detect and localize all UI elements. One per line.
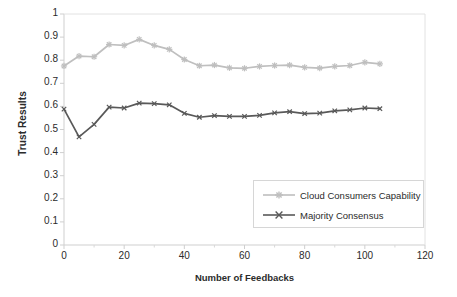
data-point-marker: [76, 53, 82, 59]
data-point-marker: [347, 62, 353, 68]
data-point-marker: [166, 46, 172, 52]
legend-label-cloud-consumers-capability: Cloud Consumers Capability: [300, 190, 420, 201]
data-point-marker: [271, 62, 277, 68]
data-point-marker: [256, 63, 262, 69]
legend-swatch-icon: [262, 209, 296, 221]
y-axis-ticks: [60, 14, 64, 245]
series-layer: [61, 36, 383, 139]
data-point-marker: [196, 63, 202, 69]
data-point-marker: [91, 54, 97, 60]
series-line: [64, 103, 380, 137]
data-series: [62, 101, 382, 139]
x-tick-label: 80: [285, 250, 325, 261]
data-point-marker: [92, 122, 96, 126]
x-tick-label: 0: [44, 250, 84, 261]
x-tick-label: 100: [345, 250, 385, 261]
data-point-marker: [121, 42, 127, 48]
data-point-marker: [61, 63, 67, 69]
chart-container: Trust Results 00.10.20.30.40.50.60.70.80…: [0, 0, 457, 297]
x-tick-label: 120: [405, 250, 445, 261]
data-point-marker: [332, 63, 338, 69]
x-axis-ticks: [64, 245, 425, 249]
data-point-marker: [317, 65, 323, 71]
legend-item-majority-consensus: Majority Consensus: [262, 208, 383, 222]
data-point-marker: [106, 41, 112, 47]
data-point-marker: [211, 62, 217, 68]
data-series: [61, 36, 383, 71]
series-line: [64, 39, 380, 68]
data-point-marker: [377, 61, 383, 67]
x-tick-label: 60: [225, 250, 265, 261]
data-point-marker: [241, 65, 247, 71]
legend: Cloud Consumers Capability Majority Cons…: [253, 180, 424, 228]
x-axis-title: Number of Feedbacks: [64, 272, 425, 283]
data-point-marker: [287, 62, 293, 68]
data-point-marker: [226, 65, 232, 71]
data-point-marker: [362, 59, 368, 65]
x-tick-label: 20: [104, 250, 144, 261]
series-markers: [62, 101, 382, 139]
data-point-marker: [181, 56, 187, 62]
data-point-marker: [136, 36, 142, 42]
data-point-marker: [151, 42, 157, 48]
legend-swatch-icon: [262, 189, 296, 201]
x-tick-label: 40: [164, 250, 204, 261]
legend-item-cloud-consumers-capability: Cloud Consumers Capability: [262, 188, 420, 202]
data-point-marker: [302, 64, 308, 70]
legend-label-majority-consensus: Majority Consensus: [300, 210, 383, 221]
